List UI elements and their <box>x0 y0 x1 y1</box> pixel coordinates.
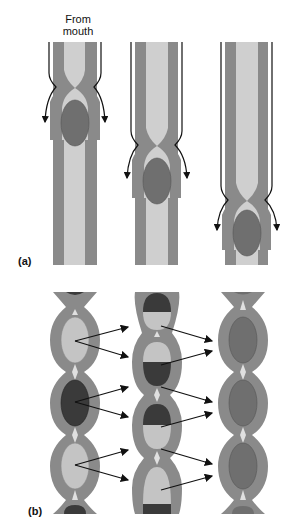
from-mouth-line2: mouth <box>58 25 98 37</box>
from-mouth-label: From mouth <box>58 13 98 37</box>
panel-b-label: (b) <box>28 505 42 517</box>
peristalsis-stage-3 <box>217 42 277 265</box>
segmentation-column-1 <box>50 292 100 514</box>
segmentation-column-3 <box>218 292 268 514</box>
peristalsis-stage-1 <box>45 42 105 265</box>
segmentation-panel <box>50 292 268 514</box>
peristalsis-panel <box>45 42 277 265</box>
segmentation-column-2 <box>132 292 182 514</box>
peristalsis-stage-2 <box>127 42 187 265</box>
panel-a-label: (a) <box>18 255 31 267</box>
digestive-motility-diagram <box>0 0 293 530</box>
from-mouth-line1: From <box>58 13 98 25</box>
